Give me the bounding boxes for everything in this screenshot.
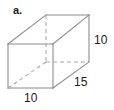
hidden-edge-bottom-left-receding xyxy=(8,62,46,88)
geometry-figure: a. 10 15 10 xyxy=(0,0,114,110)
dimension-label-depth: 15 xyxy=(74,76,87,88)
part-label: a. xyxy=(13,5,22,16)
edge-top-left-receding xyxy=(8,15,46,44)
edge-top-right-receding xyxy=(53,15,89,44)
rectangular-prism-drawing xyxy=(0,0,114,110)
dimension-label-width: 10 xyxy=(24,92,37,104)
dimension-label-height: 10 xyxy=(94,34,107,46)
